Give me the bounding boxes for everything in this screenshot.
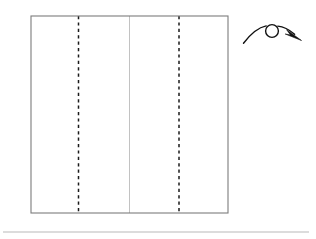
turn-over-arrowhead-icon (285, 30, 301, 41)
turn-over-arrow-shaft-right (278, 26, 295, 34)
turn-over-arrow-loop-icon (266, 25, 279, 38)
origami-diagram (0, 0, 316, 239)
turn-over-arrow-shaft-left (244, 26, 267, 43)
figure-canvas (0, 0, 316, 239)
